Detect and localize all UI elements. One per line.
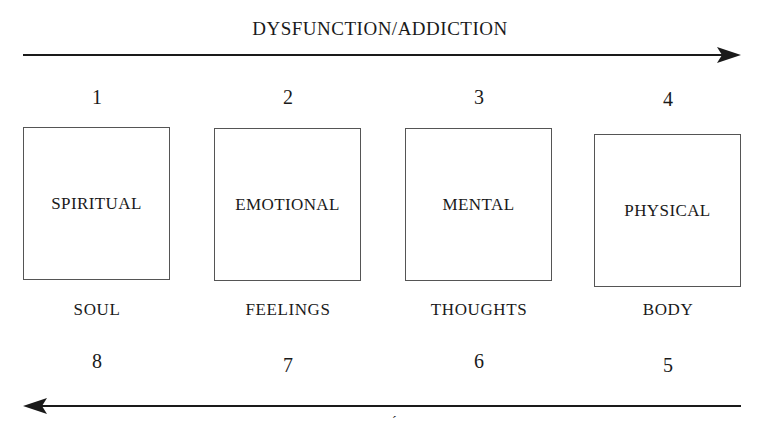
stage-sub-label: BODY	[588, 300, 748, 320]
stage-box-physical: PHYSICAL	[594, 134, 741, 287]
bottom-arrow-label-fragment: ´	[392, 414, 397, 428]
stage-number-top: 3	[459, 86, 499, 109]
stage-number-bottom: 7	[268, 354, 308, 377]
stage-sub-label: THOUGHTS	[399, 300, 559, 320]
left-arrow-icon	[23, 398, 741, 414]
stage-sub-label: SOUL	[17, 300, 177, 320]
stage-box-label: SPIRITUAL	[51, 194, 142, 214]
stage-box-label: MENTAL	[443, 195, 515, 215]
stage-box-emotional: EMOTIONAL	[214, 128, 361, 281]
right-arrow-icon	[23, 47, 741, 63]
stage-number-top: 4	[648, 88, 688, 111]
stage-box-spiritual: SPIRITUAL	[23, 127, 170, 280]
stage-number-bottom: 6	[459, 350, 499, 373]
stage-number-bottom: 8	[77, 350, 117, 373]
stage-sub-label: FEELINGS	[208, 300, 368, 320]
stage-number-bottom: 5	[648, 354, 688, 377]
stage-number-top: 2	[268, 86, 308, 109]
stage-box-mental: MENTAL	[405, 128, 552, 281]
stage-box-label: PHYSICAL	[624, 201, 710, 221]
stage-box-label: EMOTIONAL	[235, 195, 340, 215]
stage-number-top: 1	[77, 86, 117, 109]
